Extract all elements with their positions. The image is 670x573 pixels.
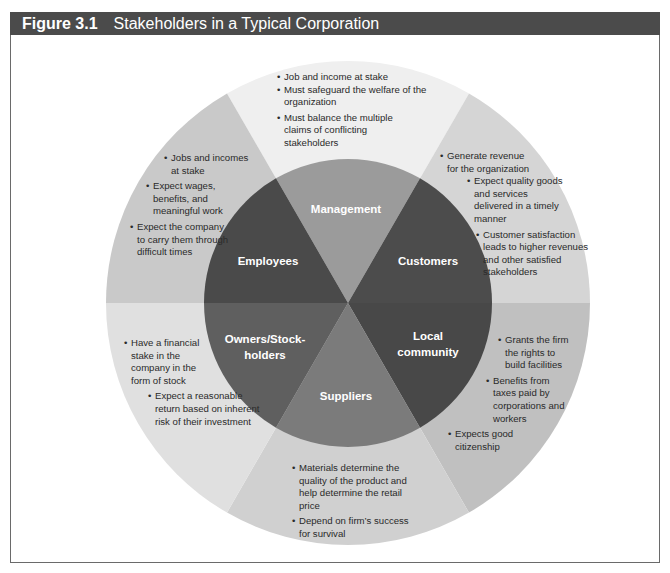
note-item: Expect a reasonable return based on inhe…: [148, 390, 265, 428]
notes-management: Job and income at stake Must safeguard t…: [277, 71, 437, 153]
notes-customers: Generate revenue for the organization Ex…: [440, 150, 590, 282]
notes-local-community: Grants the firm the rights to build faci…: [448, 334, 598, 456]
note-item: Expect the company to carry them through…: [130, 221, 229, 259]
notes-owners: Have a financial stake in the company in…: [124, 337, 274, 431]
note-item: Expect wages, benefits, and meaningful w…: [146, 180, 243, 218]
note-item: Have a financial stake in the company in…: [124, 337, 203, 387]
note-item: Expect quality goods and services delive…: [467, 175, 569, 225]
note-item: Must balance the multiple claims of conf…: [277, 112, 414, 150]
note-item: Must safeguard the welfare of the organi…: [277, 84, 437, 109]
note-item: Depend on firm’s success for survival: [292, 515, 417, 540]
label-suppliers: Suppliers: [320, 390, 372, 402]
note-item: Grants the firm the rights to build faci…: [498, 334, 577, 372]
note-item: Jobs and incomes at stake: [164, 152, 257, 177]
note-item: Job and income at stake: [277, 71, 437, 84]
note-item: Customer satisfaction leads to higher re…: [476, 229, 593, 279]
note-item: Generate revenue for the organization: [440, 150, 535, 175]
label-management: Management: [311, 203, 381, 215]
notes-suppliers: Materials determine the quality of the p…: [292, 462, 420, 544]
label-local-community-line1: Local: [413, 330, 443, 342]
note-item: Materials determine the quality of the p…: [292, 462, 420, 512]
note-item: Expects good citizenship: [448, 428, 527, 453]
note-item: Benefits from taxes paid by corporations…: [486, 375, 565, 425]
notes-employees: Jobs and incomes at stake Expect wages, …: [130, 152, 260, 262]
